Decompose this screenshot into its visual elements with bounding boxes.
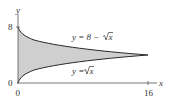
y-tick-label-8: 8: [8, 22, 13, 32]
x-tick-label-16: 16: [144, 88, 154, 98]
svg-text:x: x: [89, 66, 94, 76]
svg-text:y = 8 −: y = 8 −: [71, 32, 99, 42]
y-tick-label-0: 0: [8, 78, 13, 88]
upper-curve-label: y = 8 − x: [71, 32, 113, 42]
region-diagram: y x 8 0 0 16 y = 8 − x y = x: [0, 0, 173, 99]
y-axis-label: y: [15, 5, 20, 15]
lower-curve-label: y = x: [71, 66, 94, 76]
svg-text:y =: y =: [71, 66, 84, 76]
x-tick-label-0: 0: [16, 88, 21, 98]
svg-text:x: x: [108, 32, 113, 42]
x-axis-label: x: [158, 78, 163, 88]
